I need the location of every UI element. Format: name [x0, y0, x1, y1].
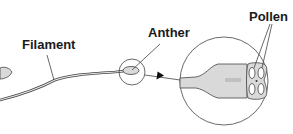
anther-leader-line: [132, 44, 160, 70]
anther-label: Anther: [148, 25, 190, 40]
filament-leader-line: [47, 55, 54, 80]
stamen-diagram: Filament Anther Pollen: [0, 0, 293, 134]
pollen-leader-line-2: [262, 24, 272, 68]
anther-shape: [123, 67, 139, 75]
filament-stalk: [0, 71, 125, 100]
petal-shape: [0, 67, 12, 79]
filament-label: Filament: [22, 37, 76, 52]
pollen-label: Pollen: [249, 9, 288, 24]
arrowhead-icon: [156, 72, 164, 81]
pollen-sacs: [247, 63, 267, 100]
